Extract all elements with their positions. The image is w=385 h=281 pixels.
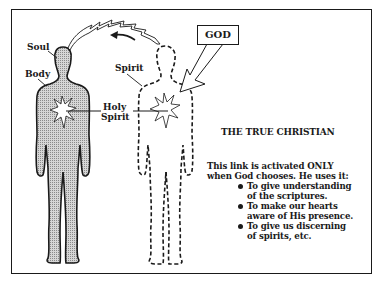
- bullet-icon: [238, 184, 243, 189]
- holy-spirit-label-line2: Spirit: [101, 112, 130, 122]
- description-line-2: when God chooses. He uses it:: [207, 171, 349, 181]
- diagram-title: THE TRUE CHRISTIAN: [221, 127, 335, 137]
- god-arrow: [180, 44, 223, 92]
- list-item: To give understanding of the scriptures.: [238, 181, 353, 201]
- body-label: Body: [25, 69, 50, 79]
- spirit-label: Spirit: [115, 63, 144, 73]
- lightning-link: [68, 20, 160, 50]
- list-item: To give us discerning of spirits, etc.: [238, 221, 353, 241]
- spirit-pointer: [127, 74, 142, 86]
- bullet-icon: [238, 224, 243, 229]
- body-figure: [36, 47, 90, 263]
- god-box: GOD: [197, 25, 239, 45]
- description-text: This link is activated ONLY when God cho…: [207, 161, 349, 181]
- soul-label: Soul: [27, 42, 49, 52]
- holy-spirit-label-line1: Holy: [103, 102, 126, 112]
- bullet-icon: [238, 204, 243, 209]
- body-pointer: [38, 79, 46, 86]
- list-item: To make our hearts aware of His presence…: [238, 201, 353, 221]
- usage-list: To give understanding of the scriptures.…: [238, 181, 353, 241]
- link-direction-arrow-icon: [110, 31, 118, 39]
- description-line-1: This link is activated ONLY: [207, 161, 349, 171]
